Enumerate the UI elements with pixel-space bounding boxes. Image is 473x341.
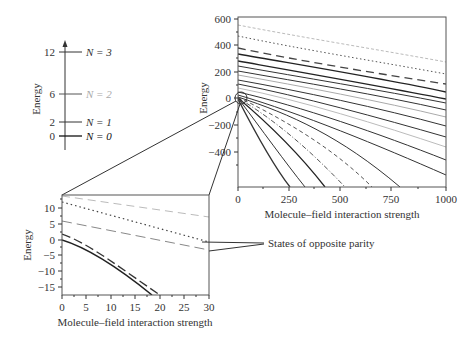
svg-text:20: 20: [155, 301, 167, 313]
svg-text:−5: −5: [43, 249, 55, 261]
inset-plot: 10 5 0 −5 −10 −15 0 5 10 15: [21, 195, 215, 328]
svg-text:0: 0: [50, 234, 56, 246]
level-label-n2: N = 2: [85, 88, 112, 100]
inset-curves: [62, 196, 209, 295]
svg-text:400: 400: [215, 39, 232, 51]
level-diagram: Energy 12 N = 3 6 N = 2 2 N = 1 0 N = 0: [30, 40, 112, 150]
main-xticks: [238, 187, 446, 191]
svg-text:0: 0: [226, 92, 232, 104]
inset-yticks: [58, 199, 62, 287]
level-value: 6: [50, 88, 56, 100]
svg-text:0: 0: [59, 301, 65, 313]
svg-text:10: 10: [106, 301, 118, 313]
svg-text:30: 30: [204, 301, 216, 313]
svg-text:750: 750: [383, 193, 400, 205]
inset-xlabel: Molecule–field interaction strength: [57, 316, 213, 328]
svg-text:−15: −15: [38, 281, 56, 293]
figure: Energy 12 N = 3 6 N = 2 2 N = 1 0 N = 0: [0, 0, 473, 341]
svg-text:−10: −10: [38, 265, 56, 277]
inset-frame: [62, 195, 209, 295]
main-yticks: [234, 19, 238, 165]
level-ylabel: Energy: [30, 83, 42, 115]
level-label-n0: N = 0: [85, 130, 112, 142]
inset-xtick-labels: 0 5 10 15 20 25 30: [59, 301, 215, 313]
level-value: 12: [44, 46, 55, 58]
inset-xticks: [62, 295, 209, 299]
inset-ylabel: Energy: [21, 229, 33, 261]
main-xtick-labels: 0 250 500 750 1000: [235, 193, 457, 205]
level-value: 0: [50, 130, 56, 142]
svg-text:−400: −400: [208, 146, 231, 158]
svg-text:1000: 1000: [435, 193, 458, 205]
svg-text:−200: −200: [208, 119, 231, 131]
main-ytick-labels: 600 400 200 0 −200 −400: [208, 13, 231, 158]
main-curves: [238, 25, 446, 187]
arrow-up-icon: [63, 40, 68, 47]
level-label-n3: N = 3: [85, 46, 112, 58]
svg-text:250: 250: [281, 193, 298, 205]
level-label-n1: N = 1: [85, 116, 112, 128]
annotation-text: States of opposite parity: [268, 237, 375, 249]
main-xlabel: Molecule–field interaction strength: [264, 208, 420, 220]
annotation-leader-upper: [202, 242, 264, 243]
level-value: 2: [50, 116, 56, 128]
svg-text:500: 500: [332, 193, 349, 205]
svg-text:600: 600: [215, 13, 232, 25]
inset-ytick-labels: 10 5 0 −5 −10 −15: [38, 202, 56, 293]
annotation-leader-lower: [209, 244, 264, 251]
svg-text:0: 0: [235, 193, 241, 205]
svg-text:10: 10: [44, 202, 56, 214]
svg-text:200: 200: [215, 66, 232, 78]
parity-annotation: States of opposite parity: [202, 237, 375, 251]
main-ylabel: Energy: [197, 82, 209, 114]
svg-text:5: 5: [83, 301, 89, 313]
svg-text:15: 15: [130, 301, 142, 313]
svg-text:25: 25: [179, 301, 191, 313]
svg-text:5: 5: [50, 218, 56, 230]
